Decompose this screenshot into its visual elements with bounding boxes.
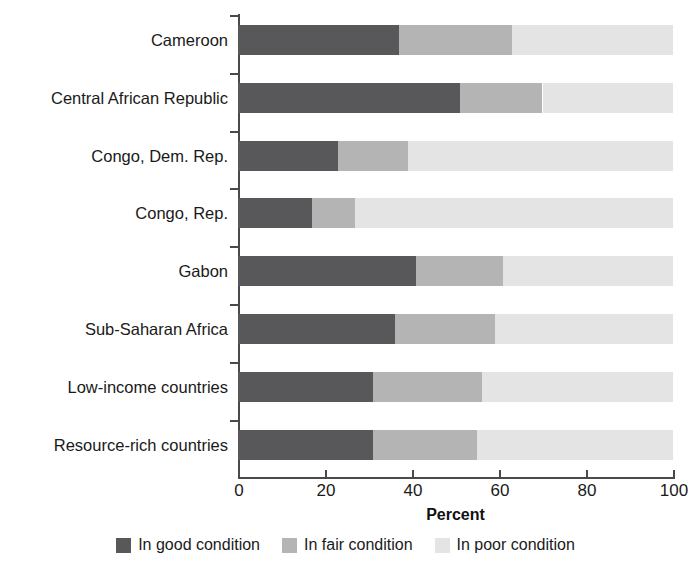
stacked-bar-chart-figure: CameroonCentral African RepublicCongo, D…	[0, 0, 691, 569]
bar-segment	[543, 83, 674, 113]
legend-swatch-icon	[435, 538, 450, 553]
legend-swatch-icon	[116, 538, 131, 553]
bar-segment	[238, 314, 395, 344]
bar-segment	[373, 430, 477, 460]
y-axis-label: Congo, Dem. Rep.	[3, 147, 228, 165]
bar-segment	[312, 198, 356, 228]
bar-row	[238, 256, 673, 286]
bar-segment	[495, 314, 673, 344]
y-axis-label: Sub-Saharan Africa	[3, 320, 228, 338]
plot-area	[238, 14, 673, 478]
bar-segment	[395, 314, 495, 344]
x-axis-tick-label: 40	[383, 481, 443, 501]
bar-segment	[373, 372, 482, 402]
bar-row	[238, 198, 673, 228]
bar-segment	[408, 141, 673, 171]
y-axis-tick	[230, 246, 239, 248]
y-axis-tick	[230, 15, 239, 17]
x-axis-tick-label: 60	[470, 481, 530, 501]
bar-row	[238, 314, 673, 344]
bar-row	[238, 25, 673, 55]
x-axis-title: Percent	[238, 506, 673, 524]
legend-item: In good condition	[116, 536, 260, 554]
bar-segment	[238, 372, 373, 402]
legend-item: In poor condition	[435, 536, 575, 554]
y-axis-tick	[230, 420, 239, 422]
x-axis-tick-label: 100	[644, 481, 691, 501]
y-axis-category-labels: CameroonCentral African RepublicCongo, D…	[0, 0, 228, 500]
bar-segment	[238, 141, 338, 171]
bar-row	[238, 83, 673, 113]
bar-row	[238, 430, 673, 460]
x-axis-tick	[499, 470, 501, 479]
y-axis-label: Resource-rich countries	[3, 436, 228, 454]
bar-segment	[238, 430, 373, 460]
bar-segment	[460, 83, 543, 113]
y-axis-tick	[230, 362, 239, 364]
bar-segment	[482, 372, 673, 402]
chart-legend: In good conditionIn fair conditionIn poo…	[0, 536, 691, 554]
y-axis-label: Low-income countries	[3, 378, 228, 396]
x-axis-tick	[412, 470, 414, 479]
legend-item: In fair condition	[282, 536, 413, 554]
x-axis-tick	[325, 470, 327, 479]
y-axis-tick	[230, 304, 239, 306]
y-axis-tick	[230, 131, 239, 133]
y-axis-tick	[230, 188, 239, 190]
bar-segment	[512, 25, 673, 55]
x-axis-tick	[586, 470, 588, 479]
legend-swatch-icon	[282, 538, 297, 553]
legend-label: In fair condition	[304, 536, 413, 554]
y-axis-label: Gabon	[3, 262, 228, 280]
y-axis-tick	[230, 73, 239, 75]
bar-segment	[503, 256, 673, 286]
bar-row	[238, 141, 673, 171]
bar-segment	[355, 198, 673, 228]
y-axis-label: Congo, Rep.	[3, 204, 228, 222]
x-axis-tick-label: 20	[296, 481, 356, 501]
bar-segment	[238, 25, 399, 55]
legend-label: In good condition	[138, 536, 260, 554]
x-axis-tick-label: 0	[209, 481, 269, 501]
y-axis-label: Central African Republic	[3, 89, 228, 107]
bar-segment	[416, 256, 503, 286]
bar-segment	[238, 83, 460, 113]
bar-row	[238, 372, 673, 402]
bar-segment	[338, 141, 408, 171]
bar-segment	[238, 198, 312, 228]
legend-label: In poor condition	[457, 536, 575, 554]
x-axis-tick	[673, 470, 675, 479]
y-axis-label: Cameroon	[3, 31, 228, 49]
bar-segment	[399, 25, 512, 55]
x-axis-tick	[238, 470, 240, 479]
x-axis-tick-label: 80	[557, 481, 617, 501]
bar-segment	[477, 430, 673, 460]
bar-segment	[238, 256, 416, 286]
